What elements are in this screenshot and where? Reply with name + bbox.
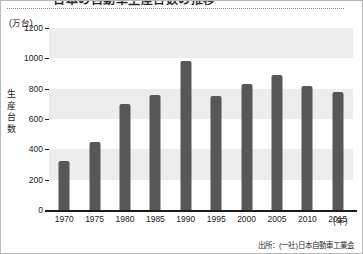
bar-1970 [59, 161, 70, 210]
bar-2015 [332, 92, 343, 210]
chart-title-cropped: 日本の自動車生産台数の推移 [1, 1, 363, 7]
bar-2005 [271, 75, 282, 210]
y-tick-label: 1000 [3, 53, 49, 63]
y-tick-label: 600 [3, 114, 49, 124]
bar-slot [262, 28, 292, 210]
bar-slot [79, 28, 109, 210]
y-tick-label: 0 [3, 205, 49, 215]
y-tick-label: 1200 [3, 23, 49, 33]
bar-1985 [150, 95, 161, 210]
y-axis-title-char: 数 [5, 124, 17, 136]
y-tick-label: 400 [3, 144, 49, 154]
bar-2000 [241, 84, 252, 210]
y-axis-title: 生産台数 [5, 89, 17, 135]
y-tick-mark [45, 89, 49, 90]
y-tick-mark [45, 180, 49, 181]
y-tick-label: 200 [3, 175, 49, 185]
y-axis: (万台) 生産台数 120010008006004002000 [1, 1, 49, 254]
dotted-divider [7, 8, 344, 9]
bar-slot [201, 28, 231, 210]
y-tick-label: 800 [3, 84, 49, 94]
y-tick-mark [45, 119, 49, 120]
x-axis-unit: (年) [333, 214, 348, 226]
bar-slot [49, 28, 79, 210]
y-tick-mark [45, 58, 49, 59]
chart-title-text: 日本の自動車生産台数の推移 [53, 1, 216, 7]
bar-slot [171, 28, 201, 210]
bar-1980 [119, 104, 130, 210]
source-note: 出所：(一社)日本自動車工業会 [258, 239, 354, 250]
bar-1995 [211, 96, 222, 210]
x-axis-line [45, 210, 357, 212]
bar-2010 [302, 86, 313, 210]
plot-area [49, 28, 353, 210]
y-tick-mark [45, 210, 49, 211]
bar-series [49, 28, 353, 210]
bar-1990 [180, 61, 191, 210]
y-tick-mark [45, 28, 49, 29]
bar-slot [231, 28, 261, 210]
y-axis-title-char: 産 [5, 101, 17, 113]
bar-slot [140, 28, 170, 210]
bar-1975 [89, 142, 100, 210]
bar-slot [110, 28, 140, 210]
y-tick-mark [45, 149, 49, 150]
bar-slot [292, 28, 322, 210]
bar-slot [323, 28, 353, 210]
chart-figure: 日本の自動車生産台数の推移 (万台) 生産台数 1200100080060040… [0, 0, 363, 254]
